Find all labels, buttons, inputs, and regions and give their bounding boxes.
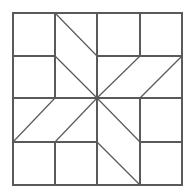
pattern-lines bbox=[13, 13, 182, 185]
diagonal-line bbox=[97, 98, 140, 142]
diagonal-line bbox=[55, 98, 97, 142]
star-pattern-figure bbox=[0, 0, 194, 196]
diagonal-line bbox=[13, 98, 55, 142]
quilt-block-diagram bbox=[0, 0, 194, 196]
diagonal-line bbox=[97, 142, 140, 185]
diagonal-line bbox=[55, 56, 97, 98]
diagonal-line bbox=[97, 56, 140, 98]
diagonal-line bbox=[55, 13, 97, 56]
diagonal-line bbox=[140, 56, 182, 98]
